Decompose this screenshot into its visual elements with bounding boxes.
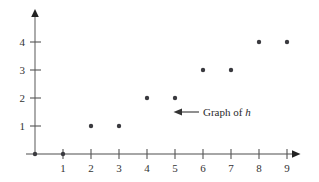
data-point: [145, 96, 149, 100]
y-tick-labels-group: 1 2 3 4: [20, 36, 26, 132]
x-tick-label-5: 5: [172, 162, 178, 174]
y-axis-arrowhead: [31, 9, 39, 17]
annotation-label-prefix: Graph of: [203, 106, 245, 118]
data-point: [117, 124, 121, 128]
graph-of-h-annotation: Graph of h: [174, 106, 252, 118]
x-tick-label-8: 8: [256, 162, 262, 174]
data-point: [229, 68, 233, 72]
data-point: [61, 152, 65, 156]
axes-group: [26, 9, 301, 158]
data-points-group: [33, 40, 289, 156]
plot-canvas: 1 2 3 4 5 6 7 8 9 1 2 3 4: [0, 0, 319, 182]
x-tick-label-4: 4: [144, 162, 150, 174]
x-axis-arrowhead: [292, 150, 301, 158]
y-tick-label-3: 3: [20, 64, 26, 76]
scatter-plot-figure: 1 2 3 4 5 6 7 8 9 1 2 3 4: [0, 0, 319, 182]
y-tick-label-2: 2: [20, 92, 26, 104]
x-tick-label-7: 7: [228, 162, 234, 174]
data-point: [89, 124, 93, 128]
x-tick-label-6: 6: [200, 162, 206, 174]
x-tick-label-2: 2: [88, 162, 94, 174]
x-tick-label-9: 9: [284, 162, 290, 174]
annotation-label: Graph of h: [203, 106, 251, 118]
annotation-label-variable: h: [245, 106, 251, 118]
data-point: [257, 40, 261, 44]
annotation-arrowhead-icon: [174, 109, 183, 116]
x-tick-label-3: 3: [116, 162, 122, 174]
y-tick-label-1: 1: [20, 120, 26, 132]
x-tick-label-1: 1: [60, 162, 66, 174]
data-point: [201, 68, 205, 72]
x-tick-labels-group: 1 2 3 4 5 6 7 8 9: [60, 162, 290, 174]
data-point: [285, 40, 289, 44]
data-point: [173, 96, 177, 100]
y-tick-label-4: 4: [20, 36, 26, 48]
data-point: [33, 152, 37, 156]
